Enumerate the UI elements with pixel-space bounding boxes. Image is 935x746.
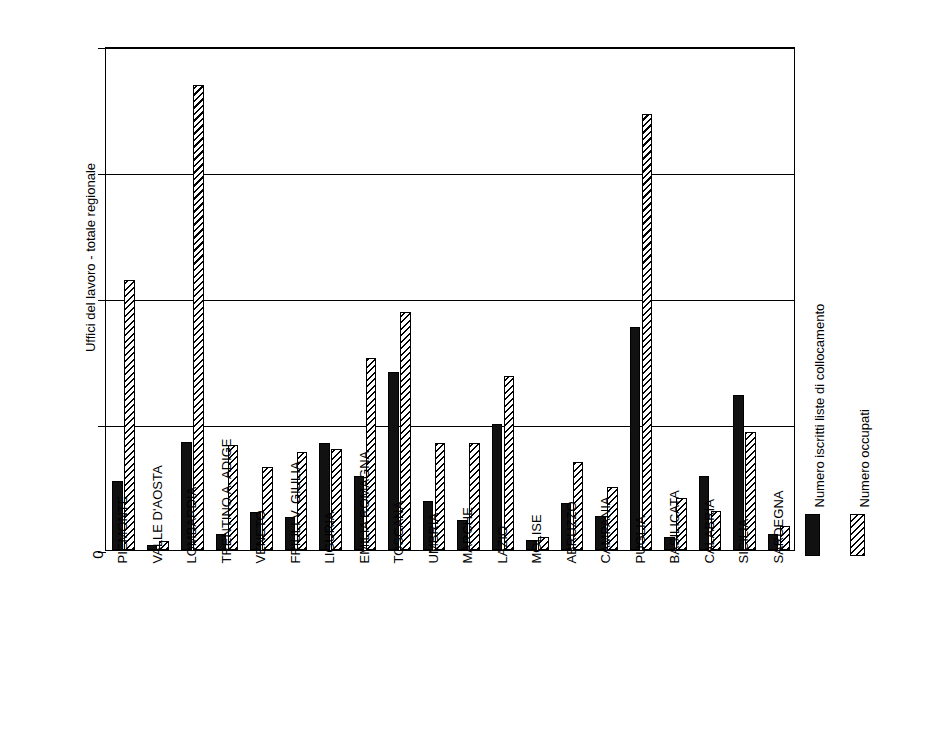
x-axis-label: PIEMONTE: [115, 496, 130, 564]
x-axis-label: SARDEGNA: [770, 491, 785, 564]
y-axis-tick: [98, 426, 106, 427]
x-axis-label: LAZIO: [494, 526, 509, 564]
x-axis-label: VALLE D'AOSTA: [149, 465, 164, 563]
bar-group: [417, 48, 452, 550]
bar-group: [658, 48, 693, 550]
bar-group: [313, 48, 348, 550]
bar-occupati: [642, 114, 653, 550]
y-axis-title: Uffici del lavoro - totale regionale: [83, 108, 98, 408]
bar-group: [762, 48, 797, 550]
bar-group: [486, 48, 521, 550]
bar-group: [244, 48, 279, 550]
x-axis-label: BASILICATA: [667, 490, 682, 563]
bar-group: [555, 48, 590, 550]
legend-label: Numero iscritti liste di collocamento: [812, 304, 827, 508]
x-axis-label: MARCHE: [460, 507, 475, 563]
chart-legend: Numero iscritti liste di collocamentoNum…: [805, 40, 935, 580]
y-axis-tick: [98, 174, 106, 175]
bar-group: [520, 48, 555, 550]
bar-group: [451, 48, 486, 550]
x-axis-label: LOMBARDIA: [184, 487, 199, 564]
bar-occupati: [504, 376, 515, 550]
bar-group: [382, 48, 417, 550]
bar-group: [693, 48, 728, 550]
legend-label: Numero occupati: [857, 409, 872, 507]
x-axis-label: CAMPANIA: [598, 497, 613, 564]
y-axis-tick: [98, 48, 106, 49]
plot-area: [105, 47, 795, 551]
bar-group: [175, 48, 210, 550]
x-axis-label: TRENTINO A. ADIGE: [218, 439, 233, 564]
x-axis-label: FRIULI V. GIULIA: [287, 461, 302, 563]
x-axis-label: UMBRIA: [425, 513, 440, 564]
bar-group: [727, 48, 762, 550]
legend-swatch-hatch: [850, 514, 865, 556]
bar-group: [106, 48, 141, 550]
y-axis-tick: [98, 552, 106, 553]
x-axis-label: PUGLIA: [632, 516, 647, 564]
x-axis-label: ABRUZZO: [563, 501, 578, 563]
x-axis-label: EMILIA ROMAGNA: [356, 451, 371, 564]
bar-group: [589, 48, 624, 550]
bar-group: [624, 48, 659, 550]
y-axis-tick: [98, 300, 106, 301]
x-axis-label: TOSCANA: [391, 501, 406, 564]
legend-swatch-solid: [805, 514, 820, 556]
x-axis-label: LIGURIA: [322, 511, 337, 563]
chart-page: Uffici del lavoro - totale regionale 050…: [0, 0, 935, 746]
x-axis-label: VENETO: [253, 510, 268, 563]
x-axis-label: CALABRIA: [701, 499, 716, 563]
bar-occupati: [193, 85, 204, 550]
x-axis-label: SICILIA: [736, 519, 751, 564]
x-axis-label: MOLISE: [529, 514, 544, 563]
